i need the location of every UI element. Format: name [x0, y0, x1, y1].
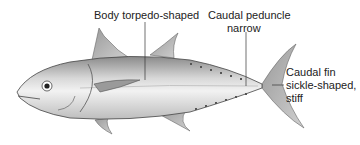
caudal-fin-label-line3: stiff	[286, 92, 303, 104]
tuna-anatomy-diagram: Body torpedo-shaped Caudal peduncle narr…	[0, 0, 360, 145]
caudal-fin-label-line1: Caudal fin	[286, 66, 336, 78]
peduncle-label-line2: narrow	[227, 22, 261, 34]
first-dorsal-fin	[92, 28, 128, 60]
fish-body	[17, 56, 262, 119]
pelvic-fin	[95, 118, 112, 134]
peduncle-label-line1: Caudal peduncle	[208, 9, 291, 21]
caudal-fin-label-line2: sickle-shaped,	[286, 79, 356, 91]
body-label: Body torpedo-shaped	[94, 9, 199, 21]
second-dorsal-fin	[150, 33, 178, 58]
